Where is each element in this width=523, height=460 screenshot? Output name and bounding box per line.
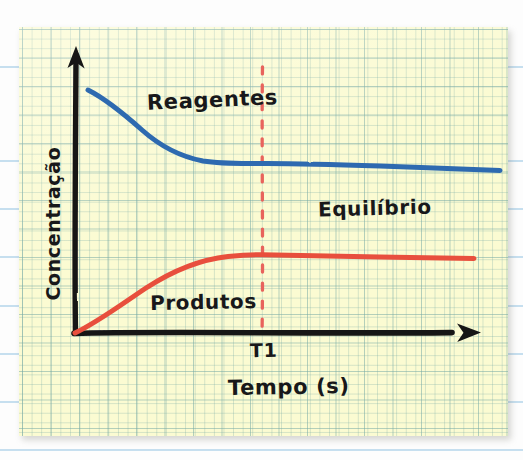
- y-axis: [68, 46, 85, 333]
- y-axis-label: Concentração: [44, 151, 63, 301]
- region-label-equilibrio: Equilíbrio: [318, 197, 432, 220]
- x-tick-label-t1: T1: [250, 341, 278, 360]
- x-axis: [74, 323, 481, 342]
- produtos-curve: [75, 255, 474, 333]
- x-axis-label: Tempo (s): [228, 376, 350, 399]
- series-label-reagentes: Reagentes: [147, 87, 279, 114]
- series-label-produtos: Produtos: [150, 291, 257, 313]
